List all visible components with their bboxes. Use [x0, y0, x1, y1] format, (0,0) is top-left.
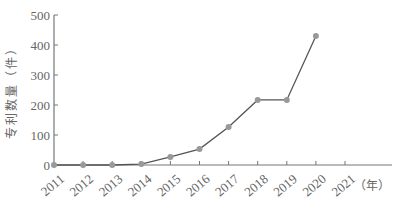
- data-point-marker: [51, 162, 57, 168]
- data-point-marker: [197, 146, 203, 152]
- data-point-marker: [226, 124, 232, 130]
- data-point-marker: [80, 162, 86, 168]
- y-axis-title: 专利数量（件）: [4, 41, 19, 139]
- x-axis-title: （年）: [354, 179, 390, 193]
- line-chart: 0100200300400500 20112012201320142015201…: [0, 0, 403, 213]
- x-tick-label: 2013: [96, 171, 126, 199]
- series-line: [54, 36, 316, 165]
- y-axis: 0100200300400500: [31, 8, 59, 173]
- x-tick-label: 2018: [241, 171, 271, 199]
- y-tick-label: 400: [31, 38, 51, 53]
- x-tick-label: 2015: [154, 171, 184, 199]
- y-tick-label: 500: [31, 8, 51, 23]
- x-axis: 2011201220132014201520162017201820192020…: [38, 161, 392, 199]
- data-point-marker: [138, 161, 144, 167]
- x-tick-label: 2016: [183, 171, 213, 200]
- data-point-marker: [167, 154, 173, 160]
- data-point-marker: [255, 97, 261, 103]
- y-tick-label: 0: [44, 158, 51, 173]
- x-tick-label: 2014: [125, 171, 155, 200]
- x-tick-label: 2019: [270, 171, 300, 199]
- y-tick-label: 300: [31, 68, 51, 83]
- data-point-marker: [313, 33, 319, 39]
- x-tick-label: 2020: [299, 171, 329, 199]
- y-tick-label: 100: [31, 128, 51, 143]
- x-tick-label: 2011: [38, 171, 67, 199]
- data-point-marker: [284, 97, 290, 103]
- data-series: [51, 33, 319, 168]
- data-point-marker: [109, 162, 115, 168]
- y-tick-label: 200: [31, 98, 51, 113]
- x-tick-label: 2012: [67, 171, 97, 199]
- x-tick-label: 2017: [212, 171, 242, 200]
